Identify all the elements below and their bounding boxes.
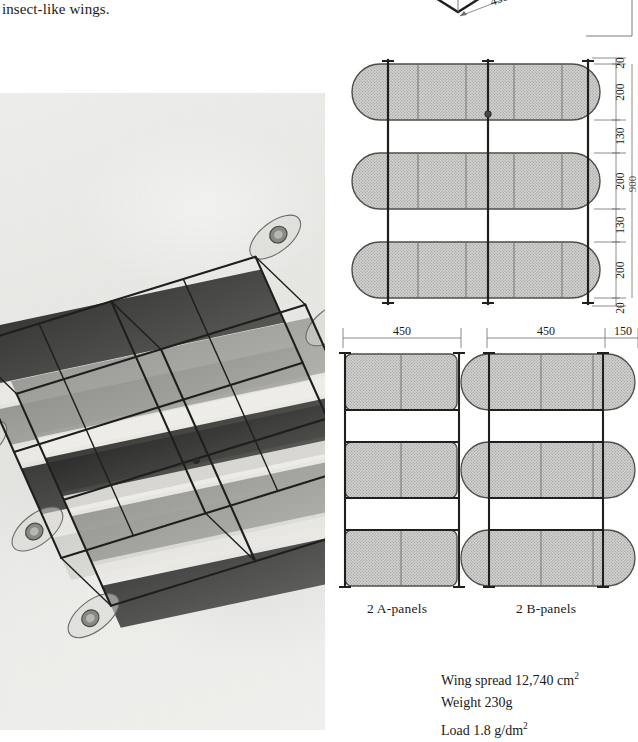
b-panel-dim-150: 150 — [614, 324, 632, 338]
body-text: insect-like wings. — [2, 1, 110, 18]
top-partial-diagram: B B 450 — [380, 0, 638, 58]
plan-dim-200-a: 200 — [614, 83, 626, 101]
plan-dim-200-c: 200 — [614, 261, 626, 279]
spec-weight: Weight 230g — [441, 692, 579, 715]
photo-film-grain — [0, 93, 325, 730]
b-panel-caption: 2 B-panels — [516, 601, 576, 617]
plan-dim-bottom-20: 20 — [614, 302, 626, 314]
kite-photograph — [0, 93, 325, 730]
a-panel-dim-450: 450 — [393, 324, 411, 338]
wing-spread-exponent: 2 — [574, 671, 579, 681]
plan-dim-overall-900: 900 — [626, 175, 638, 192]
plan-dim-130-b: 130 — [614, 216, 626, 234]
b-panel-dim-450: 450 — [537, 324, 555, 338]
plan-dim-200-b: 200 — [614, 172, 626, 190]
plan-dim-top-20: 20 — [614, 57, 626, 69]
panel-development-views: 450 450 150 — [336, 322, 638, 602]
specification-list: Wing spread 12,740 cm2 Weight 230g Load … — [441, 665, 579, 742]
plan-dim-130-a: 130 — [614, 127, 626, 145]
load-exponent: 2 — [523, 721, 528, 731]
spec-load: Load 1.8 g/dm2 — [441, 715, 579, 742]
spec-wing-spread: Wing spread 12,740 cm2 — [441, 665, 579, 692]
kite-plan-view: 20 200 130 200 130 200 20 900 — [336, 56, 638, 322]
a-panel-caption: 2 A-panels — [367, 601, 427, 617]
top-diagram-dimension: 450 — [488, 0, 510, 9]
